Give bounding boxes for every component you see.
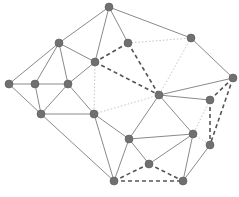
node-N xyxy=(125,135,133,143)
node-E xyxy=(187,34,195,42)
node-B xyxy=(55,39,63,47)
solid-edge-A-C xyxy=(109,7,128,43)
node-K xyxy=(206,96,214,104)
node-O xyxy=(189,130,197,138)
solid-edge-A-E xyxy=(109,7,191,38)
graph-diagram xyxy=(0,0,239,197)
solid-edge-I-J xyxy=(159,78,233,95)
solid-edge-J-K xyxy=(159,95,210,100)
node-G xyxy=(31,80,39,88)
solid-edge-N-O xyxy=(129,134,193,139)
node-H xyxy=(64,80,72,88)
solid-edge-J-O xyxy=(159,95,193,134)
node-Q xyxy=(145,160,153,168)
dotted-edge-E-J xyxy=(159,38,191,95)
solid-edge-B-F xyxy=(9,43,59,84)
node-R xyxy=(110,177,118,185)
dashed-edge-C-J xyxy=(128,43,159,95)
solid-edge-M-N xyxy=(94,114,129,139)
node-C xyxy=(124,39,132,47)
dashed-edge-D-J xyxy=(95,62,159,95)
dotted-edge-D-M xyxy=(94,62,95,114)
dashed-edge-I-K xyxy=(210,78,233,100)
node-A xyxy=(105,3,113,11)
solid-edge-J-N xyxy=(129,95,159,139)
node-F xyxy=(5,80,13,88)
solid-edge-H-L xyxy=(41,84,68,114)
dashed-edge-C-D xyxy=(95,43,128,62)
solid-edge-B-D xyxy=(59,43,95,62)
dotted-edge-M-J xyxy=(94,95,159,114)
solid-edge-B-H xyxy=(59,43,68,84)
node-M xyxy=(90,110,98,118)
node-I xyxy=(229,74,237,82)
solid-edge-M-R xyxy=(94,114,114,181)
solid-edge-N-Q xyxy=(129,139,149,164)
node-S xyxy=(179,177,187,185)
dotted-edge-K-O xyxy=(193,100,210,134)
solid-edge-O-Q xyxy=(149,134,193,164)
solid-edge-E-I xyxy=(191,38,233,78)
node-L xyxy=(37,110,45,118)
dashed-edge-Q-S xyxy=(149,164,183,181)
solid-edge-L-R xyxy=(41,114,114,181)
node-P xyxy=(206,141,214,149)
dotted-edge-C-E xyxy=(128,38,191,43)
solid-edge-B-G xyxy=(35,43,59,84)
edges-layer xyxy=(9,7,233,181)
solid-edge-H-M xyxy=(68,84,94,114)
node-J xyxy=(155,91,163,99)
node-D xyxy=(91,58,99,66)
solid-edge-H-D xyxy=(68,62,95,84)
